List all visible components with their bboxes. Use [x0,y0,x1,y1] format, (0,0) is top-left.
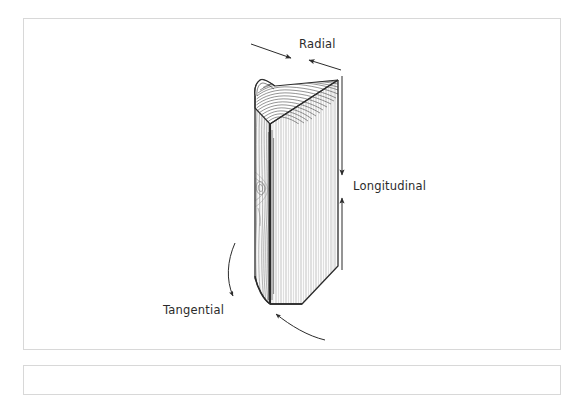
longitudinal-annotation: Longitudinal [342,76,426,270]
radial-arrow-left [251,44,291,58]
radial-arrow-right [309,60,341,70]
tangential-arrow-lower [276,314,325,340]
wood-block [255,77,338,306]
secondary-caption-frame [23,365,561,395]
wood-directions-diagram: Radial Longitudinal Tangential [23,18,561,350]
tangential-arrow-upper [228,243,235,296]
radial-label: Radial [299,37,336,51]
radial-annotation: Radial [251,37,341,70]
tangential-label: Tangential [162,303,224,317]
longitudinal-label: Longitudinal [353,179,426,193]
